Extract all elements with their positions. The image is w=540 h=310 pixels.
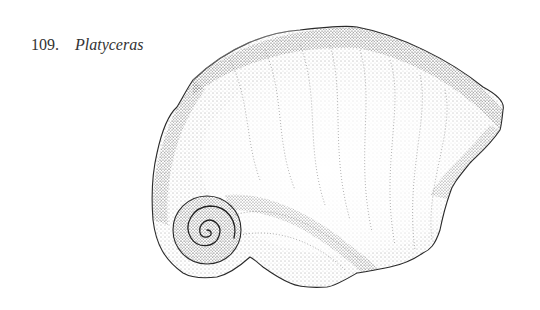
shell-illustration [0, 0, 540, 310]
apical-spiral [173, 196, 241, 264]
figure-plate: 109. Platyceras [0, 0, 540, 310]
